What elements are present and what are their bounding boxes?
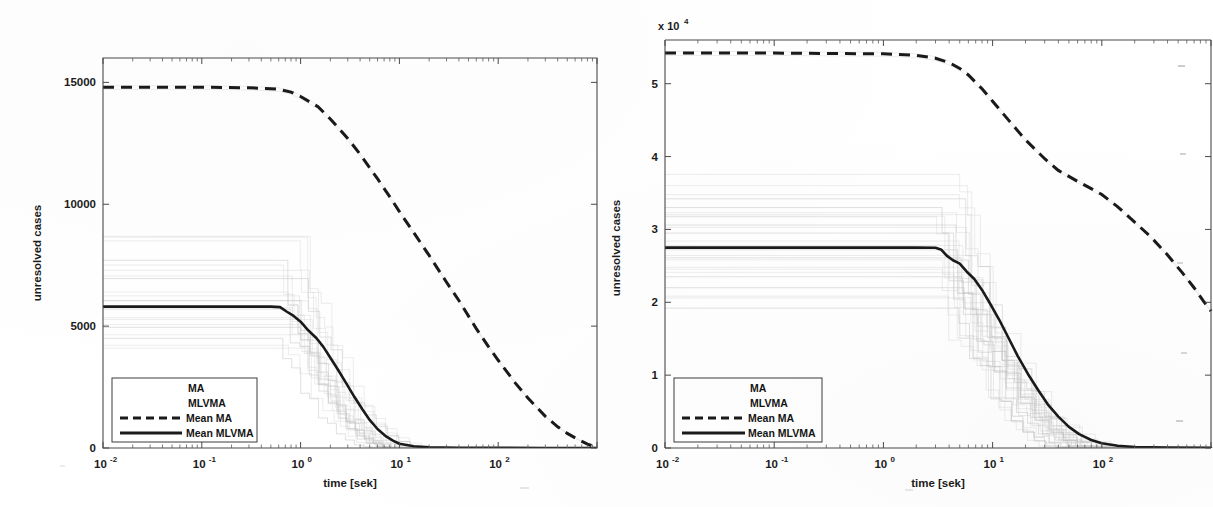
svg-text:10: 10 xyxy=(1093,458,1106,470)
x-tick-label: 102 xyxy=(489,455,510,470)
x-tick-label: 101 xyxy=(390,455,411,470)
x-tick-label: 102 xyxy=(1093,455,1114,470)
x-tick-label: 10-1 xyxy=(765,455,789,470)
y-tick-label: 2 xyxy=(652,296,658,308)
x-tick-labels-right: 10-210-1100101102 xyxy=(656,455,1114,470)
legend-item-mean-ma-right: Mean MA xyxy=(748,412,795,424)
svg-text:1: 1 xyxy=(1000,455,1005,464)
svg-text:-1: -1 xyxy=(209,455,217,464)
chart-panel-left: 050001000015000 10-210-1100101102 time [… xyxy=(0,0,615,507)
svg-text:-2: -2 xyxy=(672,455,680,464)
y-axis-multiplier-right: x 10 4 xyxy=(658,17,689,32)
chart-svg-left: 050001000015000 10-210-1100101102 time [… xyxy=(0,0,615,507)
y-tick-label: 15000 xyxy=(64,76,96,88)
y-tick-label: 0 xyxy=(90,442,96,454)
x-tick-label: 10-2 xyxy=(94,455,118,470)
y-tick-label: 1 xyxy=(652,369,659,381)
y-tick-labels-right: 012345 xyxy=(652,78,659,454)
x-axis-title-left: time [sek] xyxy=(323,477,377,489)
svg-text:10: 10 xyxy=(765,458,778,470)
legend-item-ma-right: MA xyxy=(750,382,767,394)
svg-text:10: 10 xyxy=(489,458,502,470)
chart-panel-right: 012345 10-210-1100101102 x 10 4 time [se… xyxy=(598,0,1213,507)
svg-text:0: 0 xyxy=(890,455,895,464)
y-tick-label: 5000 xyxy=(70,320,96,332)
svg-text:2: 2 xyxy=(1109,455,1114,464)
chart-svg-right: 012345 10-210-1100101102 x 10 4 time [se… xyxy=(598,0,1213,507)
svg-text:10: 10 xyxy=(656,458,669,470)
x-tick-label: 10-1 xyxy=(193,455,217,470)
y-tick-label: 3 xyxy=(652,223,658,235)
svg-text:10: 10 xyxy=(874,458,887,470)
x-tick-label: 101 xyxy=(984,455,1005,470)
y-tick-label: 0 xyxy=(652,442,658,454)
svg-text:10: 10 xyxy=(193,458,206,470)
legend-right[interactable]: MA MLVMA Mean MA Mean MLVMA xyxy=(674,378,822,442)
y-tick-label: 10000 xyxy=(64,198,96,210)
svg-text:10: 10 xyxy=(94,458,107,470)
legend-item-mlvma-right: MLVMA xyxy=(750,397,788,409)
legend-item-mlvma-left: MLVMA xyxy=(188,397,226,409)
svg-text:10: 10 xyxy=(292,458,305,470)
legend-item-ma-left: MA xyxy=(188,382,205,394)
x-tick-label: 100 xyxy=(292,455,313,470)
figure-container: 050001000015000 10-210-1100101102 time [… xyxy=(0,0,1213,507)
legend-left[interactable]: MA MLVMA Mean MA Mean MLVMA xyxy=(112,378,257,442)
y-axis-title-right: unresolved cases xyxy=(610,200,622,297)
y-axis-title-left: unresolved cases xyxy=(31,205,43,302)
svg-text:-2: -2 xyxy=(110,455,118,464)
y-multiplier-mantissa-right: x 10 xyxy=(658,20,679,32)
y-tick-labels-left: 050001000015000 xyxy=(64,76,96,454)
legend-item-mean-mlvma-left: Mean MLVMA xyxy=(186,427,254,439)
svg-text:-1: -1 xyxy=(781,455,789,464)
svg-text:10: 10 xyxy=(984,458,997,470)
svg-text:1: 1 xyxy=(406,455,411,464)
x-tick-label: 100 xyxy=(874,455,895,470)
x-tick-label: 10-2 xyxy=(656,455,680,470)
svg-text:0: 0 xyxy=(308,455,313,464)
svg-text:10: 10 xyxy=(390,458,403,470)
x-tick-labels-left: 10-210-1100101102 xyxy=(94,455,510,470)
legend-item-mean-ma-left: Mean MA xyxy=(186,412,233,424)
legend-item-mean-mlvma-right: Mean MLVMA xyxy=(748,427,816,439)
y-tick-label: 4 xyxy=(652,151,659,163)
y-tick-label: 5 xyxy=(652,78,659,90)
x-axis-title-right: time [sek] xyxy=(911,477,965,489)
svg-text:2: 2 xyxy=(505,455,510,464)
y-multiplier-exponent-right: 4 xyxy=(684,17,689,26)
